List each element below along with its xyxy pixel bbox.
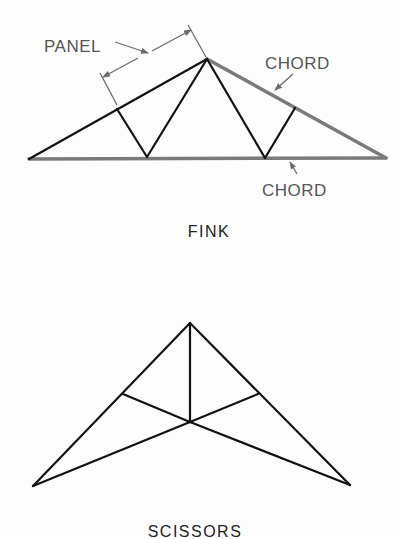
truss-diagram-figure: PANEL CHORD CHORD FINK SCISSORS	[0, 0, 403, 539]
fink-right-web-members	[207, 59, 295, 158]
panel-leader-arrow	[115, 42, 148, 53]
panel-dimension: PANEL	[44, 25, 206, 105]
panel-extension-line-left	[100, 73, 117, 105]
scissors-left-web	[123, 394, 190, 422]
scissors-right-web	[190, 394, 258, 422]
scissors-top-chords	[33, 323, 350, 486]
bottom-chord-leader-arrow	[290, 162, 297, 174]
bottom-chord-label: CHORD	[262, 181, 327, 200]
fink-right-top-chord	[207, 59, 386, 158]
fink-truss	[29, 59, 386, 159]
scissors-bottom-chords	[33, 422, 350, 486]
truss-diagram-svg: PANEL CHORD CHORD FINK SCISSORS	[0, 0, 403, 539]
panel-label: PANEL	[44, 37, 101, 56]
panel-dimension-arrow-right	[152, 30, 191, 51]
scissors-truss	[33, 323, 350, 486]
fink-bottom-chord	[29, 158, 386, 159]
top-chord-leader-arrow	[275, 74, 293, 90]
top-chord-label: CHORD	[265, 54, 330, 73]
scissors-caption: SCISSORS	[148, 523, 243, 539]
panel-dimension-arrow-left	[103, 58, 138, 77]
top-chord-annotation: CHORD	[265, 54, 330, 90]
fink-left-web-members	[117, 59, 207, 157]
fink-caption: FINK	[188, 223, 230, 240]
bottom-chord-annotation: CHORD	[262, 162, 327, 200]
